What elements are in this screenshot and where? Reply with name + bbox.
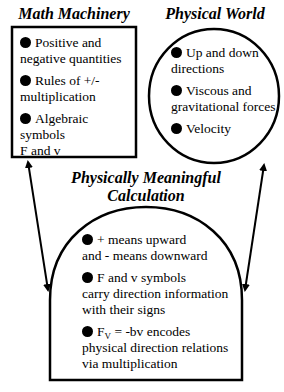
bullet-icon <box>20 37 31 48</box>
list-item: Velocity <box>171 121 283 137</box>
bullet-icon <box>20 75 31 86</box>
bullet-icon <box>171 47 182 58</box>
bullet-icon <box>82 272 93 283</box>
list-item: Viscous andgravitational forces <box>171 83 283 115</box>
math-machinery-list: Positive andnegative quantities Rules of… <box>20 35 135 165</box>
physical-world-list: Up and downdirections Viscous andgravita… <box>171 45 283 143</box>
list-item: + means upwardand - means downward <box>82 232 242 264</box>
calculation-list: + means upwardand - means downward F and… <box>82 232 242 378</box>
list-item: Positive andnegative quantities <box>20 35 135 67</box>
list-item: Rules of +/-multiplication <box>20 73 135 105</box>
calculation-title: Physically Meaningful Calculation <box>60 169 232 205</box>
bullet-icon <box>20 113 31 124</box>
arrow-world-to-calculation <box>245 165 264 290</box>
bullet-icon <box>171 85 182 96</box>
physical-world-title: Physical World <box>150 5 280 23</box>
list-item: FV = -bv encodesphysical direction relat… <box>82 324 242 372</box>
math-machinery-title: Math Machinery <box>12 5 136 23</box>
bullet-icon <box>82 234 93 245</box>
list-item: F and v symbolscarry direction informati… <box>82 270 242 318</box>
arrow-math-to-calculation <box>28 162 48 290</box>
bullet-icon <box>82 326 93 337</box>
bullet-icon <box>171 123 182 134</box>
list-item: Up and downdirections <box>171 45 283 77</box>
list-item: Algebraic symbolsF and v <box>20 111 135 159</box>
